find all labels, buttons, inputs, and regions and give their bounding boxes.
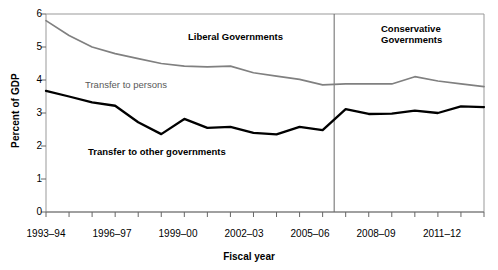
x-tick-label-2008-09: 2008–09	[341, 229, 411, 239]
x-tick-label-2002-03: 2002–03	[209, 229, 279, 239]
series-line-transfer-to-other-governments	[46, 91, 484, 135]
x-tick-label-1999-00: 1999–00	[143, 229, 213, 239]
y-tick-label-3: 3	[22, 108, 42, 118]
chart-figure: Percent of GDP 6 5 4 3 2 1 0 1993–94 199…	[0, 0, 498, 270]
y-tick-label-1: 1	[22, 174, 42, 184]
annotation-conservative-governments-line1: Conservative	[381, 23, 441, 34]
transfer-to-persons-label: Transfer to persons	[85, 79, 167, 90]
x-tick-label-2005-06: 2005–06	[275, 229, 345, 239]
x-axis-title: Fiscal year	[0, 251, 498, 262]
x-tick-label-2011-12: 2011–12	[407, 229, 477, 239]
annotation-conservative-governments-line2: Governments	[381, 34, 442, 45]
x-tick-label-1993-94: 1993–94	[11, 229, 81, 239]
y-tick-label-2: 2	[22, 141, 42, 151]
y-tick-label-4: 4	[22, 75, 42, 85]
annotation-liberal-governments: Liberal Governments	[188, 31, 283, 42]
y-tick-label-6: 6	[22, 9, 42, 19]
x-tick-label-1996-97: 1996–97	[77, 229, 147, 239]
x-tick-marks	[46, 212, 484, 217]
y-tick-label-0: 0	[22, 207, 42, 217]
transfer-to-other-governments-label: Transfer to other governments	[88, 146, 226, 157]
y-axis-title: Percent of GDP	[10, 51, 21, 171]
y-tick-label-5: 5	[22, 42, 42, 52]
